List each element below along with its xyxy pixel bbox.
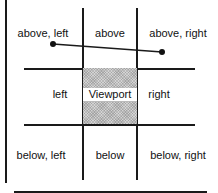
line-segment bbox=[0, 0, 218, 193]
segment-end-point-icon bbox=[159, 49, 165, 55]
segment-start-point-icon bbox=[50, 41, 56, 47]
segment-line bbox=[53, 44, 162, 52]
